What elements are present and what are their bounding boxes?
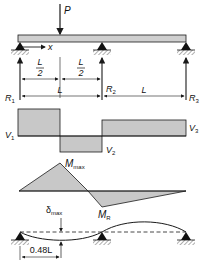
shear-label-v3: V3 bbox=[189, 123, 199, 134]
loading-diagram: P x L 2 bbox=[5, 4, 200, 104]
support-right-icon bbox=[177, 232, 195, 245]
beam-diagram: P x L 2 bbox=[0, 0, 201, 263]
x-axis-label: x bbox=[47, 42, 53, 52]
svg-text:2: 2 bbox=[77, 68, 83, 78]
load-label: P bbox=[64, 5, 71, 16]
support-left-icon bbox=[11, 232, 29, 245]
support-middle-icon bbox=[93, 42, 111, 55]
moment-diagram: Mmax MR bbox=[19, 158, 186, 221]
moment-negative-region bbox=[88, 191, 186, 207]
half-span-label-2: L 2 bbox=[77, 57, 85, 78]
moment-label-mr: MR bbox=[98, 209, 111, 221]
shear-label-v1: V1 bbox=[5, 130, 15, 141]
reaction-label-r2: R2 bbox=[106, 84, 117, 95]
support-right-icon bbox=[177, 42, 195, 55]
shear-label-v2: V2 bbox=[106, 145, 116, 156]
shear-region-v1 bbox=[18, 109, 60, 136]
svg-text:2: 2 bbox=[36, 68, 42, 78]
shear-diagram: V1 V2 V3 bbox=[5, 109, 199, 156]
beam bbox=[18, 35, 186, 42]
shear-region-v3 bbox=[102, 120, 186, 136]
half-span-label-1: L 2 bbox=[36, 57, 44, 78]
deflection-location-label: 0.48L bbox=[30, 245, 53, 255]
reaction-label-r3: R3 bbox=[189, 93, 200, 104]
deflection-label-dmax: δmax bbox=[46, 205, 62, 216]
span-label-2: L bbox=[141, 85, 146, 95]
svg-text:L: L bbox=[37, 57, 42, 67]
moment-label-mmax: Mmax bbox=[65, 158, 85, 170]
shear-region-v2 bbox=[60, 136, 102, 152]
svg-text:L: L bbox=[78, 57, 83, 67]
span-label-1: L bbox=[57, 85, 62, 95]
reaction-label-r1: R1 bbox=[5, 93, 16, 104]
support-left-icon bbox=[11, 42, 29, 55]
support-middle-icon bbox=[93, 232, 111, 245]
